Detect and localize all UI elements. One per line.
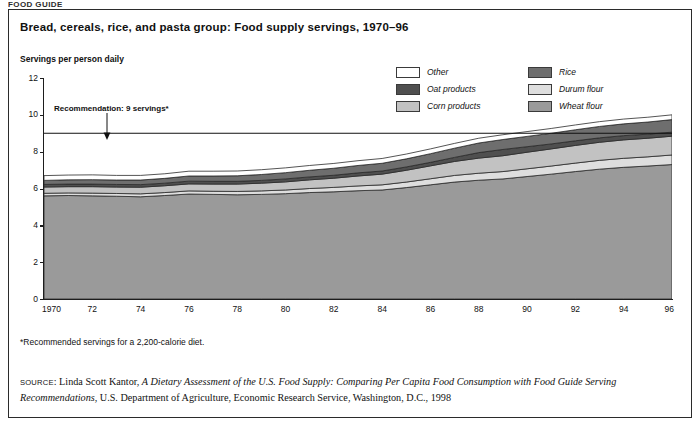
x-tick-80: 80 (266, 305, 306, 314)
x-axis-line (43, 299, 673, 300)
x-tick-82: 82 (314, 305, 354, 314)
legend-swatch-rice (528, 67, 552, 78)
recommendation-annotation-label: Recommendation: 9 servings* (54, 104, 169, 113)
x-tick-76: 76 (169, 305, 209, 314)
y-axis-title: Servings per person daily (20, 54, 124, 64)
source-keyword: SOURCE (20, 378, 54, 387)
y-tick-6: 6 (8, 184, 38, 193)
y-tick-mark-12 (40, 78, 44, 79)
x-tick-74: 74 (121, 305, 161, 314)
recommendation-arrow-icon (100, 113, 114, 141)
x-tick-84: 84 (362, 305, 402, 314)
y-tick-mark-2 (40, 262, 44, 263)
x-tick-86: 86 (410, 305, 450, 314)
x-tick-90: 90 (507, 305, 547, 314)
y-tick-mark-4 (40, 225, 44, 226)
y-tick-mark-8 (40, 152, 44, 153)
source-note: SOURCE: Linda Scott Kantor, A Dietary As… (20, 374, 670, 405)
source-part2: , U.S. Department of Agriculture, Econom… (95, 392, 451, 403)
page-title: Bread, cereals, rice, and pasta group: F… (20, 21, 409, 33)
y-tick-mark-10 (40, 115, 44, 116)
y-tick-8: 8 (8, 147, 38, 156)
legend-label-rice: Rice (559, 67, 576, 77)
x-tick-92: 92 (555, 305, 595, 314)
y-tick-2: 2 (8, 258, 38, 267)
source-part1: : Linda Scott Kantor, (54, 376, 142, 387)
y-tick-mark-6 (40, 189, 44, 190)
y-tick-4: 4 (8, 221, 38, 230)
footnote: *Recommended servings for a 2,200-calori… (20, 337, 204, 347)
chart-figure: FOOD GUIDE Bread, cereals, rice, and pas… (0, 0, 700, 426)
x-tick-96: 96 (634, 305, 674, 314)
x-tick-78: 78 (217, 305, 257, 314)
x-tick-72: 72 (72, 305, 112, 314)
legend-label-other: Other (427, 67, 448, 77)
y-tick-mark-0 (40, 299, 44, 300)
x-tick-88: 88 (459, 305, 499, 314)
legend-swatch-other (396, 67, 420, 78)
page-header-text: FOOD GUIDE (8, 0, 128, 9)
y-tick-10: 10 (8, 110, 38, 119)
y-tick-12: 12 (8, 74, 38, 83)
y-tick-0: 0 (8, 295, 38, 304)
